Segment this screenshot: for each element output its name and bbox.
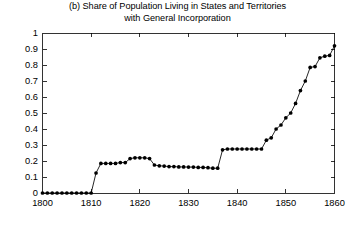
data-point: [119, 161, 123, 165]
data-point: [289, 111, 293, 115]
x-tick-label-1810: 1810: [81, 198, 102, 208]
y-tick-label-1: 1: [33, 28, 38, 38]
data-point: [80, 191, 84, 195]
data-series: [41, 44, 337, 195]
data-point: [55, 191, 59, 195]
data-point: [128, 157, 132, 161]
y-tick-label-0.9: 0.9: [25, 44, 38, 54]
series-line: [43, 46, 335, 193]
data-point: [284, 116, 288, 120]
x-tick-label-1840: 1840: [227, 198, 248, 208]
data-point: [308, 66, 312, 70]
chart-figure: (b) Share of Population Living in States…: [0, 0, 355, 229]
data-point: [138, 156, 142, 160]
y-tick-label-0.3: 0.3: [25, 140, 38, 150]
plot-area: 1800181018201830184018501860 00.10.20.30…: [0, 0, 355, 229]
x-tick-label-1820: 1820: [129, 198, 150, 208]
data-point: [303, 79, 307, 83]
data-point: [104, 162, 108, 166]
data-point: [333, 44, 337, 48]
data-point: [187, 165, 191, 169]
x-tick-label-1850: 1850: [275, 198, 296, 208]
data-point: [50, 191, 54, 195]
data-point: [153, 163, 157, 167]
data-point: [172, 165, 176, 169]
data-point: [114, 162, 118, 166]
data-point: [196, 166, 200, 170]
data-point: [167, 165, 171, 169]
data-point: [182, 165, 186, 169]
y-axis-tick-labels: 00.10.20.30.40.50.60.70.80.91: [25, 28, 38, 198]
data-point: [230, 147, 234, 151]
data-point: [226, 147, 230, 151]
data-point: [240, 147, 244, 151]
data-point: [206, 166, 210, 170]
data-point: [221, 148, 225, 152]
data-point: [328, 54, 332, 58]
data-point: [70, 191, 74, 195]
data-point: [299, 89, 303, 93]
data-point: [294, 102, 298, 106]
data-point: [323, 54, 327, 58]
data-point: [216, 166, 220, 170]
data-point: [94, 171, 98, 175]
data-point: [211, 166, 215, 170]
y-tick-label-0.2: 0.2: [25, 156, 38, 166]
y-tick-label-0.7: 0.7: [25, 76, 38, 86]
y-tick-label-0.6: 0.6: [25, 92, 38, 102]
x-tick-label-1800: 1800: [32, 198, 53, 208]
data-point: [84, 191, 88, 195]
data-point: [245, 147, 249, 151]
y-tick-label-0: 0: [33, 188, 38, 198]
data-point: [313, 65, 317, 69]
data-point: [41, 191, 45, 195]
data-point: [148, 157, 152, 161]
data-point: [201, 166, 205, 170]
x-axis-tick-labels: 1800181018201830184018501860: [32, 198, 345, 208]
y-tick-label-0.5: 0.5: [25, 108, 38, 118]
data-point: [260, 147, 264, 151]
data-point: [60, 191, 64, 195]
data-point: [75, 191, 79, 195]
data-point: [250, 147, 254, 151]
data-point: [255, 147, 259, 151]
data-point: [269, 136, 273, 140]
data-point: [109, 162, 113, 166]
data-point: [157, 164, 161, 168]
data-point: [235, 147, 239, 151]
data-point: [123, 161, 127, 165]
data-point: [99, 162, 103, 166]
data-point: [133, 156, 137, 160]
data-point: [318, 56, 322, 60]
x-tick-label-1830: 1830: [178, 198, 199, 208]
y-tick-label-0.4: 0.4: [25, 124, 38, 134]
data-point: [177, 165, 181, 169]
data-point: [279, 123, 283, 127]
data-point: [143, 156, 147, 160]
data-point: [274, 127, 278, 131]
y-tick-label-0.8: 0.8: [25, 60, 38, 70]
data-point: [89, 191, 93, 195]
data-point: [265, 138, 269, 142]
data-point: [46, 191, 50, 195]
data-point: [192, 165, 196, 169]
data-point: [162, 164, 166, 168]
y-tick-label-0.1: 0.1: [25, 172, 38, 182]
x-tick-label-1860: 1860: [324, 198, 345, 208]
data-point: [65, 191, 69, 195]
